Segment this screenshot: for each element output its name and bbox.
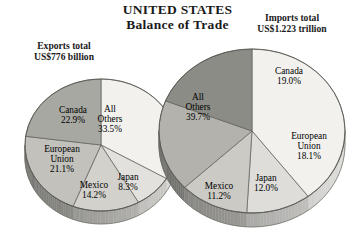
imports-all-others-name2: Others [186,102,211,112]
exports-all-others-name: All [104,104,116,114]
imports-japan-pct: 12.0% [245,183,287,193]
imports-canada-name: Canada [275,66,303,76]
exports-mexico-pct: 14.2% [71,190,117,200]
imports-eu-name2: Union [297,141,320,151]
imports-all-others-pct: 39.7% [174,112,222,122]
imports-canada-pct: 19.0% [263,76,315,86]
exports-canada-name: Canada [59,105,87,115]
imports-slice-label-all-others: All Others 39.7% [174,92,222,123]
imports-slice-label-european-union: European Union 18.1% [281,131,337,162]
imports-japan-name: Japan [255,173,276,183]
chart-canvas: UNITED STATES Balance of Trade Exports t… [0,0,355,238]
exports-mexico-name: Mexico [80,180,108,190]
imports-mexico-pct: 11.2% [196,191,242,201]
imports-mexico-name: Mexico [205,181,233,191]
exports-slice-label-european-union: European Union 21.1% [34,144,90,175]
exports-all-others-name2: Others [98,114,123,124]
exports-canada-pct: 22.9% [47,115,99,125]
imports-eu-name: European [291,131,327,141]
exports-eu-name: European [44,144,80,154]
exports-eu-pct: 21.1% [34,164,90,174]
imports-slice-label-mexico: Mexico 11.2% [196,181,242,201]
imports-eu-pct: 18.1% [281,151,337,161]
imports-slice-label-canada: Canada 19.0% [263,66,315,86]
exports-eu-name2: Union [50,154,73,164]
imports-all-others-name: All [192,92,204,102]
exports-all-others-pct: 33.5% [87,124,133,134]
exports-slice-label-mexico: Mexico 14.2% [71,180,117,200]
exports-slice-label-canada: Canada 22.9% [47,105,99,125]
imports-slice-label-japan: Japan 12.0% [245,173,287,193]
exports-japan-name: Japan [117,172,138,182]
